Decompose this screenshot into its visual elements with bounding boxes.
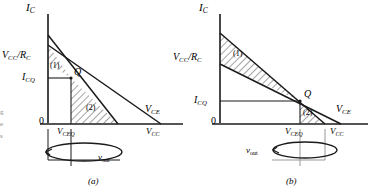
vcc-label-a: VCC (146, 127, 160, 137)
vout-label-b: vout (246, 146, 258, 156)
region-2-shading-a (71, 78, 118, 124)
q-point-marker-b (298, 99, 301, 102)
icq-label-a: ICQ (22, 72, 35, 84)
figure-root: g e s (0, 0, 373, 191)
icq-label-b: ICQ (194, 95, 207, 107)
panel-caption-a: (a) (88, 176, 99, 186)
panel-b-graphic (190, 0, 373, 191)
dc-load-line-b (220, 64, 341, 124)
panel-a: IC VCC/RC ICQ 0 VCEQ VCC VCE Q (1) (2) v… (0, 0, 190, 191)
panel-b: IC VCC/RC ICQ 0 VCEQ VCC VCE Q (1) (2) v… (190, 0, 373, 191)
y-axis-label-a: IC (26, 2, 35, 15)
panel-a-graphic (0, 0, 190, 191)
vout-ellipse-b (273, 142, 337, 158)
y-intercept-label-a: VCC/RC (2, 50, 31, 62)
x-axis-label-a: VCE (145, 104, 160, 116)
origin-label-b: 0 (211, 116, 216, 126)
region-2-label-a: (2) (86, 104, 95, 112)
region-1-label-a: (1) (50, 62, 59, 70)
origin-label-a: 0 (39, 116, 44, 126)
q-point-marker-a (69, 76, 72, 79)
region-1-label-b: (1) (233, 50, 242, 58)
vcc-label-b: VCC (330, 127, 344, 137)
vceq-label-a: VCEQ (57, 127, 75, 137)
y-intercept-label-b: VCC/RC (173, 52, 202, 64)
x-axis-label-b: VCE (336, 104, 351, 116)
q-point-label-b: Q (304, 89, 311, 99)
y-axis-label-b: IC (199, 2, 208, 15)
q-point-label-a: Q (74, 67, 81, 77)
vout-label-a: vout (98, 153, 110, 163)
vceq-label-b: VCEQ (285, 127, 303, 137)
region-2-label-b: (2) (303, 109, 312, 117)
vout-ellipse-a (46, 143, 122, 161)
panel-caption-b: (b) (286, 176, 297, 186)
